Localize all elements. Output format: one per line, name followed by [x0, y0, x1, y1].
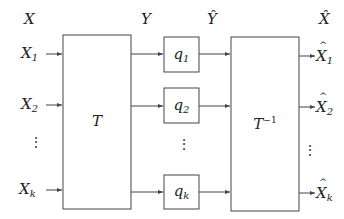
- quantizer-label-k: qk: [164, 184, 199, 201]
- input-ellipsis: ⋮: [29, 140, 37, 145]
- header-y: Y: [141, 12, 151, 27]
- header-x: X: [24, 12, 35, 27]
- header-x-hat: X̂: [319, 12, 330, 27]
- inverse-transform-label: T−1: [231, 116, 299, 132]
- output-label-k: Xk: [316, 186, 333, 203]
- input-label-1: X1: [21, 46, 38, 63]
- header-y-hat: Ŷ: [207, 12, 217, 27]
- input-label-2: X2: [21, 97, 38, 114]
- output-ellipsis: ⋮: [303, 148, 311, 153]
- quantizer-label-2: q2: [164, 98, 199, 115]
- transform-label: T: [63, 114, 131, 129]
- quantizer-label-1: q1: [164, 47, 199, 64]
- output-label-1: X1: [316, 49, 333, 66]
- input-label-k: Xk: [19, 182, 36, 199]
- quantizer-ellipsis: ⋮: [177, 142, 185, 147]
- output-label-2: X2: [316, 100, 333, 117]
